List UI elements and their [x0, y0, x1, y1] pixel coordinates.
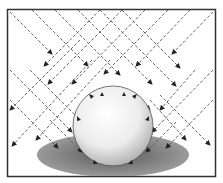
sphere [73, 86, 153, 166]
light-rays-sphere-diagram [0, 0, 223, 183]
